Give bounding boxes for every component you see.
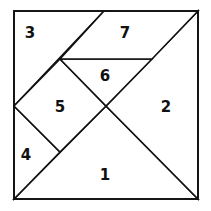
label-5: 5 bbox=[55, 98, 65, 116]
label-1: 1 bbox=[100, 166, 110, 184]
label-2: 2 bbox=[161, 98, 171, 116]
label-4: 4 bbox=[21, 146, 31, 164]
label-7: 7 bbox=[120, 24, 130, 42]
tangram-diagram: 1 2 3 4 5 6 7 bbox=[0, 0, 211, 211]
label-3: 3 bbox=[25, 24, 35, 42]
label-6: 6 bbox=[100, 67, 110, 85]
